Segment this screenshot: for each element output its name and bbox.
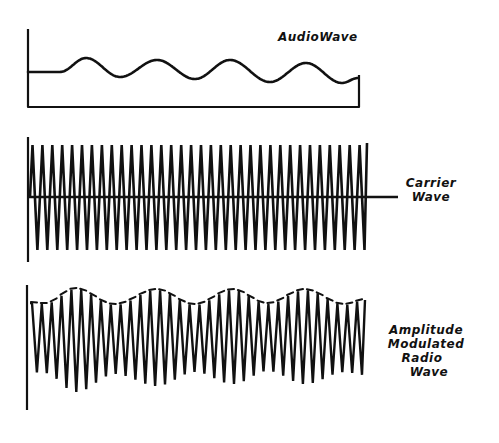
am-envelope-dash	[356, 299, 362, 300]
am-envelope-dash	[189, 303, 195, 304]
am-wave-label: Amplitude Modulated Radio Wave	[386, 323, 466, 379]
am-envelope-dash	[120, 302, 126, 304]
carrier-wave-label: Carrier Wave	[402, 176, 460, 204]
am-envelope-dash	[149, 289, 155, 290]
am-label-line3: Radio	[378, 351, 466, 365]
am-envelope-dash	[346, 303, 352, 304]
am-envelope-dash	[199, 302, 205, 304]
am-envelope-dash	[218, 291, 224, 294]
am-waveform	[30, 290, 365, 392]
am-envelope-dash	[130, 297, 136, 300]
audio-wave-label: AudioWave	[278, 30, 358, 44]
am-envelope-dash	[139, 292, 145, 294]
am-label-line2: Modulated	[386, 337, 466, 351]
am-envelope-dash	[110, 304, 116, 305]
am-label-line1: Amplitude	[386, 323, 466, 337]
am-envelope-dash	[61, 291, 67, 295]
am-envelope-dash	[277, 298, 283, 301]
carrier-label-line2: Wave	[402, 190, 460, 204]
am-envelope-dash	[159, 289, 165, 290]
audio-wave-label-text: AudioWave	[278, 30, 358, 44]
am-label-line4: Wave	[392, 365, 466, 379]
carrier-label-line1: Carrier	[402, 176, 460, 190]
carrier-wave-panel	[28, 137, 398, 262]
am-envelope-dash	[51, 298, 57, 301]
am-envelope-dash	[208, 296, 214, 299]
am-envelope-dash	[287, 292, 293, 295]
am-envelope-dash	[336, 303, 342, 304]
am-envelope-dash	[307, 289, 313, 290]
modulation-diagram: AudioWave Carrier Wave Amplitude Modulat…	[0, 0, 499, 443]
audio-waveform	[28, 58, 358, 83]
am-envelope-dash	[297, 289, 303, 290]
am-envelope-dash	[267, 302, 273, 303]
am-wave-panel	[27, 285, 365, 410]
am-envelope-dash	[70, 288, 76, 289]
